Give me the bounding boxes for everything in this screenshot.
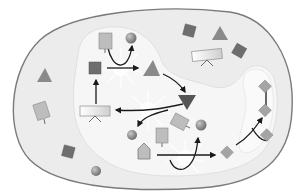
diagram-canvas <box>0 0 296 193</box>
